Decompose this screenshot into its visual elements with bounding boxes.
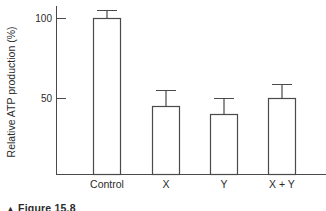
bar-y (211, 115, 238, 175)
x-tick-label-y: Y (220, 178, 227, 190)
bar-control (94, 19, 121, 175)
x-tick-label-control: Control (90, 178, 124, 190)
x-tick-label-x-plus-y: X + Y (269, 178, 295, 190)
caption-triangle-icon: ▲ (6, 204, 15, 211)
error-bar-control (97, 11, 117, 19)
y-tick-label-50: 50 (41, 93, 53, 104)
y-axis-title: Relative ATP production (%) (5, 27, 17, 158)
caption-text: Figure 15.8 (18, 202, 76, 211)
figure-caption: ▲Figure 15.8 (6, 202, 76, 211)
bar-x (153, 107, 180, 175)
error-bar-y (214, 99, 234, 115)
bar-chart: 100 50 Relative ATP production (%) Contr… (0, 0, 326, 211)
error-bar-x (156, 91, 176, 107)
error-bar-x-plus-y (272, 85, 292, 99)
figure-container: 100 50 Relative ATP production (%) Contr… (0, 0, 326, 211)
y-tick-label-100: 100 (35, 13, 52, 24)
x-tick-label-x: X (162, 178, 169, 190)
bar-x-plus-y (269, 99, 296, 175)
